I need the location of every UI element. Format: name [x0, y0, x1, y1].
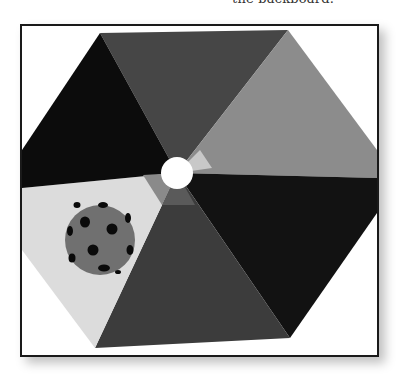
figure-frame — [20, 24, 379, 357]
center-hole — [161, 157, 193, 189]
backboard-illustration — [22, 26, 377, 355]
caption-text: the backboard. — [232, 0, 334, 6]
